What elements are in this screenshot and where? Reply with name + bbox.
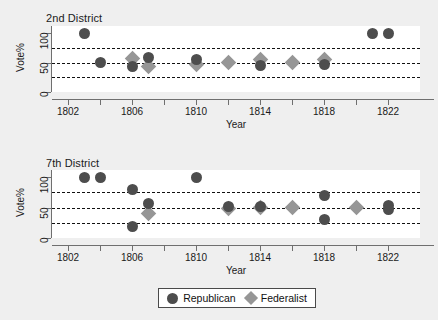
x-tick-1822: [388, 100, 389, 105]
y-axis-line: [51, 26, 52, 92]
data-point-federalist-1812-50: [220, 55, 236, 71]
data-point-republican-1804-100: [95, 172, 106, 183]
y-tick-label-50: 50: [39, 207, 50, 229]
x-tick-1816: [292, 100, 293, 105]
legend: Republican Federalist: [158, 288, 316, 308]
x-tick-label-1814: 1814: [240, 252, 280, 263]
x-tick-1804: [100, 246, 101, 251]
x-axis-title: Year: [196, 265, 276, 276]
data-point-republican-1804-50: [95, 57, 106, 68]
data-point-federalist-1816-50: [284, 55, 300, 71]
x-axis-line: [52, 245, 434, 246]
x-tick-1812: [228, 246, 229, 251]
x-tick-1818: [324, 100, 325, 105]
x-tick-label-1806: 1806: [112, 252, 152, 263]
x-tick-1808: [164, 246, 165, 251]
circle-marker-icon: [167, 293, 178, 304]
data-point-republican-1803-100: [79, 28, 90, 39]
x-tick-1820: [356, 100, 357, 105]
y-tick-label-100: 100: [39, 177, 50, 199]
x-axis-title: Year: [196, 119, 276, 130]
data-point-republican-1812-52: [223, 201, 234, 212]
data-point-republican-1821-100: [367, 28, 378, 39]
x-tick-label-1822: 1822: [368, 106, 408, 117]
data-point-republican-1818-31: [319, 214, 330, 225]
data-point-republican-1806-19: [127, 221, 138, 232]
data-point-republican-1814-45: [255, 60, 266, 71]
chart-figure: 2nd District 050100Vote%1802180618101814…: [0, 0, 438, 320]
data-point-republican-1810-100: [191, 172, 202, 183]
plot-area-7th-district: [52, 170, 420, 238]
x-tick-label-1806: 1806: [112, 106, 152, 117]
legend-item-republican[interactable]: Republican: [167, 292, 236, 304]
x-tick-label-1818: 1818: [304, 252, 344, 263]
plot-area-2nd-district: [52, 26, 420, 92]
data-point-federalist-1816-50: [284, 200, 300, 216]
x-axis-line: [52, 99, 434, 100]
x-tick-label-1822: 1822: [368, 252, 408, 263]
legend-label-federalist: Federalist: [261, 292, 307, 304]
x-tick-1812: [228, 100, 229, 105]
x-tick-1802: [68, 100, 69, 105]
x-tick-label-1818: 1818: [304, 106, 344, 117]
x-tick-1818: [324, 246, 325, 251]
panel-title-2nd-district: 2nd District: [46, 12, 102, 24]
legend-label-republican: Republican: [183, 292, 236, 304]
x-tick-label-1814: 1814: [240, 106, 280, 117]
y-axis-title: Vote%: [15, 173, 26, 233]
y-axis-title: Vote%: [15, 28, 26, 88]
reference-line-75: [52, 192, 420, 193]
x-tick-1816: [292, 246, 293, 251]
x-tick-1814: [260, 246, 261, 251]
panel-title-7th-district: 7th District: [46, 157, 99, 169]
x-tick-1806: [132, 100, 133, 105]
data-point-republican-1818-46: [319, 59, 330, 70]
panel-7th-district: 7th District 050100Vote%1802180618101814…: [0, 150, 438, 285]
data-point-republican-1807-57: [143, 198, 154, 209]
y-tick-label-100: 100: [39, 33, 50, 55]
data-point-republican-1822-100: [383, 28, 394, 39]
data-point-republican-1818-70: [319, 190, 330, 201]
x-tick-label-1802: 1802: [48, 252, 88, 263]
reference-line-25: [52, 77, 420, 78]
x-tick-label-1802: 1802: [48, 106, 88, 117]
x-tick-1802: [68, 246, 69, 251]
data-point-republican-1807-58: [143, 52, 154, 63]
diamond-marker-icon: [244, 291, 258, 305]
x-tick-label-1810: 1810: [176, 252, 216, 263]
y-axis-line: [51, 170, 52, 238]
data-point-republican-1806-80: [127, 184, 138, 195]
x-tick-1820: [356, 246, 357, 251]
reference-line-75: [52, 48, 420, 49]
y-tick-label-50: 50: [39, 62, 50, 84]
data-point-republican-1822-47: [383, 204, 394, 215]
reference-line-25: [52, 223, 420, 224]
x-tick-label-1810: 1810: [176, 106, 216, 117]
data-point-republican-1806-44: [127, 61, 138, 72]
x-tick-1810: [196, 100, 197, 105]
x-tick-1806: [132, 246, 133, 251]
legend-item-federalist[interactable]: Federalist: [246, 292, 307, 304]
x-tick-1810: [196, 246, 197, 251]
x-tick-1808: [164, 100, 165, 105]
data-point-republican-1803-100: [79, 172, 90, 183]
x-tick-1814: [260, 100, 261, 105]
data-point-republican-1814-52: [255, 201, 266, 212]
data-point-federalist-1820-50: [348, 200, 364, 216]
panel-2nd-district: 2nd District 050100Vote%1802180618101814…: [0, 0, 438, 150]
x-tick-1804: [100, 100, 101, 105]
data-point-republican-1810-55: [191, 54, 202, 65]
x-tick-1822: [388, 246, 389, 251]
